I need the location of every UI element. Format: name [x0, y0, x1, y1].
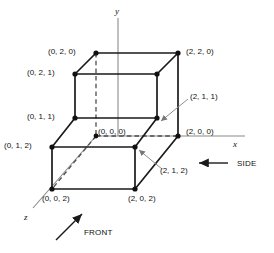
vertex-dot-0-2-1	[72, 71, 77, 76]
vertex-label-0-1-2: (0, 1, 2)	[4, 141, 32, 150]
edge-step-right-diag	[135, 118, 157, 147]
vertex-dot-2-1-2	[132, 144, 137, 149]
leader-line-2-1-1	[161, 99, 188, 121]
front-direction-label: FRONT	[84, 228, 113, 237]
vertex-dot-0-2-0	[93, 50, 98, 55]
vertex-dot-0-1-1	[72, 115, 77, 120]
vertex-label-0-0-2: (0, 0, 2)	[42, 194, 70, 203]
x-axis-label: x	[233, 139, 237, 149]
vertex-label-2-0-0: (2, 0, 0)	[186, 127, 214, 136]
edge-top-left-diag	[75, 53, 96, 74]
vertex-label-2-1-1: (2, 1, 1)	[190, 92, 218, 101]
vertex-label-2-1-2: (2, 1, 2)	[160, 166, 188, 175]
vertex-dot-0-0-2	[49, 186, 54, 191]
edge-step-left-diag	[52, 118, 75, 147]
vertex-dot-2-0-2	[132, 186, 137, 191]
vertex-dot-2-0-0	[175, 133, 180, 138]
vertex-label-2-2-0: (2, 2, 0)	[186, 47, 214, 56]
edge-top-right-diag	[157, 53, 178, 74]
vertex-label-0-2-0: (0, 2, 0)	[48, 47, 76, 56]
edge-lower-right-diag	[135, 136, 178, 189]
vertex-dot-0-1-2	[49, 144, 54, 149]
vertex-dot-2-2-0	[175, 50, 180, 55]
leader-lines-group	[139, 99, 188, 169]
vertex-dot-2-2-1	[154, 71, 159, 76]
side-direction-label: SIDE	[237, 159, 256, 168]
vertex-label-2-0-2: (2, 0, 2)	[128, 194, 156, 203]
box-diagram-svg	[0, 0, 274, 253]
vertex-label-0-1-1: (0, 1, 1)	[27, 112, 55, 121]
front-arrow	[56, 214, 82, 240]
vertex-label-0-2-1: (0, 2, 1)	[27, 68, 55, 77]
figure-container: y x z (0, 2, 0) (2, 2, 0) (0, 2, 1) (2, …	[0, 0, 274, 253]
z-axis-label: z	[24, 212, 28, 222]
hidden-edge-0-0-0-to-0-0-2	[52, 136, 96, 189]
y-axis-label: y	[115, 6, 119, 16]
vertex-label-0-0-0: (0, 0, 0)	[98, 127, 126, 136]
vertex-dot-2-1-1	[154, 115, 159, 120]
